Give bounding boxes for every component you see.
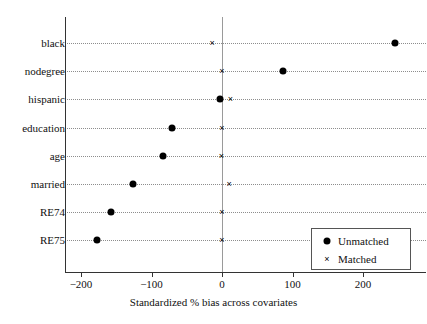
- point-unmatched-black: [391, 40, 398, 47]
- point-matched-black: ×: [208, 39, 217, 48]
- x-tick-label: 200: [355, 278, 372, 290]
- x-axis-title: Standardized % bias across covariates: [0, 296, 427, 309]
- point-unmatched-re75: [94, 237, 101, 244]
- bias-dot-chart: black×nodegree×hispanic×education×age×ma…: [0, 0, 427, 324]
- row-gridline: [67, 71, 426, 72]
- x-tick-mark: [152, 272, 153, 277]
- category-label-re74: RE74: [0, 207, 65, 218]
- point-matched-age: ×: [217, 151, 226, 160]
- x-tick-label: 0: [219, 278, 225, 290]
- x-tick-mark: [222, 272, 223, 277]
- x-tick-label: 100: [284, 278, 301, 290]
- point-matched-married: ×: [225, 180, 234, 189]
- category-label-hispanic: hispanic: [0, 94, 65, 105]
- x-tick-label: −200: [70, 278, 93, 290]
- category-label-education: education: [0, 122, 65, 133]
- point-matched-nodegree: ×: [218, 67, 227, 76]
- row-gridline: [67, 43, 426, 44]
- filled-circle-icon: [322, 236, 332, 246]
- legend-item-matched: × Matched: [312, 250, 412, 268]
- legend-label-matched: Matched: [338, 253, 376, 265]
- x-tick-mark: [293, 272, 294, 277]
- x-tick-mark: [81, 272, 82, 277]
- point-unmatched-age: [159, 152, 166, 159]
- point-matched-re75: ×: [218, 236, 227, 245]
- cross-x-icon: ×: [322, 254, 332, 264]
- point-unmatched-nodegree: [280, 68, 287, 75]
- category-label-age: age: [0, 150, 65, 161]
- x-tick-mark: [363, 272, 364, 277]
- row-gridline: [67, 128, 426, 129]
- point-unmatched-married: [130, 181, 137, 188]
- point-unmatched-education: [168, 124, 175, 131]
- point-unmatched-hispanic: [216, 96, 223, 103]
- row-gridline: [67, 99, 426, 100]
- chart-legend: Unmatched × Matched: [311, 228, 411, 270]
- point-matched-education: ×: [218, 123, 227, 132]
- point-matched-hispanic: ×: [226, 95, 235, 104]
- category-label-re75: RE75: [0, 235, 65, 246]
- row-gridline: [67, 156, 426, 157]
- row-gridline: [67, 212, 426, 213]
- legend-label-unmatched: Unmatched: [338, 235, 389, 247]
- category-label-married: married: [0, 179, 65, 190]
- category-label-black: black: [0, 38, 65, 49]
- x-tick-label: −100: [140, 278, 163, 290]
- point-matched-re74: ×: [218, 208, 227, 217]
- category-label-nodegree: nodegree: [0, 66, 65, 77]
- point-unmatched-re74: [107, 209, 114, 216]
- y-axis-line: [65, 17, 66, 273]
- x-axis-line: [65, 272, 426, 273]
- row-gridline: [67, 184, 426, 185]
- legend-item-unmatched: Unmatched: [312, 232, 412, 250]
